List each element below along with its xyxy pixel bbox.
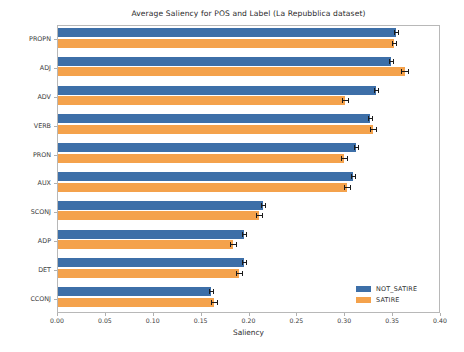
bar-group [58, 228, 439, 257]
y-tick-mark [54, 68, 57, 69]
y-tick-label-adv: ADV [0, 93, 51, 101]
bar-group [58, 112, 439, 141]
error-cap [401, 69, 402, 74]
x-tick-label-0.25: 0.25 [282, 317, 310, 324]
x-tick-mark [344, 313, 345, 316]
error-cap [396, 41, 397, 46]
x-tick-label-0.35: 0.35 [378, 317, 406, 324]
x-tick-mark [392, 313, 393, 316]
bar-group [58, 170, 439, 199]
x-tick-label-0.00: 0.00 [43, 317, 71, 324]
bar-adp-not_satire [58, 230, 244, 239]
bars-container [58, 26, 439, 312]
bar-adv-satire [58, 96, 345, 105]
error-cap [342, 98, 343, 103]
error-cap [262, 213, 263, 218]
x-tick-label-0.05: 0.05 [91, 317, 119, 324]
bar-det-satire [58, 269, 239, 278]
x-tick-mark [440, 313, 441, 316]
x-tick-mark [153, 313, 154, 316]
error-bar [401, 71, 409, 72]
y-tick-mark [54, 241, 57, 242]
bar-aux-satire [58, 183, 347, 192]
error-cap [347, 156, 348, 161]
y-tick-label-cconj: CCONJ [0, 295, 51, 303]
error-cap [394, 30, 395, 35]
bar-group [58, 84, 439, 113]
y-tick-label-verb: VERB [0, 122, 51, 130]
y-tick-mark [54, 212, 57, 213]
error-cap [392, 41, 393, 46]
error-cap [355, 174, 356, 179]
error-cap [408, 69, 409, 74]
y-tick-mark [54, 126, 57, 127]
error-cap [242, 260, 243, 265]
y-tick-label-propn: PROPN [0, 35, 51, 43]
error-cap [370, 127, 371, 132]
legend-label: NOT_SATIRE [376, 285, 417, 293]
bar-pron-satire [58, 154, 344, 163]
legend-swatch-icon [356, 297, 371, 303]
bar-adj-not_satire [58, 57, 391, 66]
error-cap [246, 232, 247, 237]
x-tick-label-0.10: 0.10 [139, 317, 167, 324]
x-tick-label-0.20: 0.20 [235, 317, 263, 324]
y-tick-label-aux: AUX [0, 179, 51, 187]
plot-area [57, 25, 440, 313]
error-cap [230, 242, 231, 247]
x-tick-mark [201, 313, 202, 316]
x-tick-label-0.30: 0.30 [330, 317, 358, 324]
bar-det-not_satire [58, 258, 244, 267]
bar-cconj-satire [58, 298, 214, 307]
error-cap [358, 145, 359, 150]
chart-figure: Average Saliency for POS and Label (La R… [0, 0, 464, 352]
legend-item-satire[interactable]: SATIRE [356, 295, 430, 304]
legend-swatch-icon [356, 286, 371, 292]
y-tick-label-adp: ADP [0, 237, 51, 245]
error-cap [211, 300, 212, 305]
bar-verb-satire [58, 125, 373, 134]
bar-group [58, 55, 439, 84]
bar-sconj-not_satire [58, 201, 263, 210]
error-cap [242, 232, 243, 237]
bar-cconj-not_satire [58, 287, 211, 296]
bar-aux-not_satire [58, 172, 353, 181]
error-cap [217, 300, 218, 305]
error-cap [389, 59, 390, 64]
y-tick-label-sconj: SCONJ [0, 208, 51, 216]
error-cap [213, 289, 214, 294]
error-cap [398, 30, 399, 35]
bar-adj-satire [58, 67, 405, 76]
bar-group [58, 199, 439, 228]
bar-group [58, 26, 439, 55]
y-tick-label-pron: PRON [0, 151, 51, 159]
error-cap [236, 242, 237, 247]
error-cap [351, 174, 352, 179]
bar-group [58, 141, 439, 170]
error-cap [246, 260, 247, 265]
x-axis-label: Saliency [57, 328, 440, 337]
error-cap [236, 271, 237, 276]
bar-verb-not_satire [58, 114, 370, 123]
y-tick-label-adj: ADJ [0, 64, 51, 72]
y-tick-mark [54, 270, 57, 271]
error-cap [354, 145, 355, 150]
error-cap [341, 156, 342, 161]
y-tick-mark [54, 39, 57, 40]
error-cap [242, 271, 243, 276]
legend-item-not_satire[interactable]: NOT_SATIRE [356, 284, 430, 293]
error-cap [348, 98, 349, 103]
bar-adv-not_satire [58, 86, 376, 95]
y-tick-label-det: DET [0, 266, 51, 274]
error-cap [368, 116, 369, 121]
bar-propn-satire [58, 39, 394, 48]
y-tick-mark [54, 155, 57, 156]
y-tick-mark [54, 183, 57, 184]
chart-title: Average Saliency for POS and Label (La R… [57, 9, 440, 18]
error-cap [350, 185, 351, 190]
bar-adp-satire [58, 240, 233, 249]
chart-legend: NOT_SATIRESATIRE [352, 281, 434, 309]
error-cap [261, 203, 262, 208]
error-cap [372, 116, 373, 121]
error-cap [265, 203, 266, 208]
